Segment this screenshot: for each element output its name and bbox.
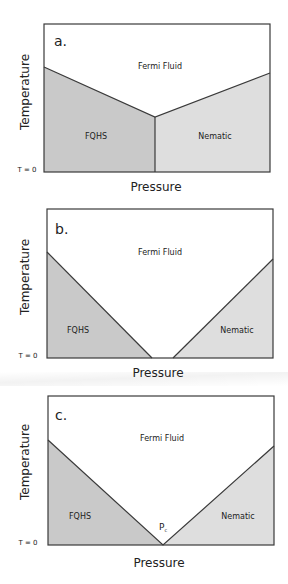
panel-a: a. Fermi Fluid FQHS Nematic Temperature … [16, 24, 270, 194]
t-zero-label: T = 0 [17, 539, 37, 547]
x-axis-label: Pressure [133, 556, 184, 570]
y-axis-label: Temperature [18, 54, 32, 131]
panel-label: a. [54, 33, 67, 49]
nematic-label: Nematic [221, 512, 254, 521]
fermi-fluid-label: Fermi Fluid [138, 248, 182, 257]
y-axis-label: Temperature [18, 424, 32, 501]
t-zero-label: T = 0 [16, 166, 36, 174]
panel-c: c. Fermi Fluid FQHS Nematic Pc Temperatu… [17, 396, 274, 570]
fqhs-label: FQHS [85, 132, 107, 141]
panel-label: b. [55, 221, 68, 237]
t-zero-label: T = 0 [17, 352, 37, 360]
panel-label: c. [55, 407, 67, 423]
x-axis-label: Pressure [130, 180, 181, 194]
x-axis-label: Pressure [132, 366, 183, 380]
nematic-label: Nematic [198, 132, 231, 141]
y-axis-label: Temperature [18, 239, 32, 316]
phase-diagram-figure: a. Fermi Fluid FQHS Nematic Temperature … [0, 0, 288, 584]
panel-b: b. Fermi Fluid FQHS Nematic Temperature … [17, 209, 273, 380]
fqhs-label: FQHS [67, 326, 89, 335]
fermi-fluid-label: Fermi Fluid [138, 62, 182, 71]
nematic-label: Nematic [220, 326, 253, 335]
fqhs-label: FQHS [69, 512, 91, 521]
fermi-fluid-label: Fermi Fluid [140, 434, 184, 443]
